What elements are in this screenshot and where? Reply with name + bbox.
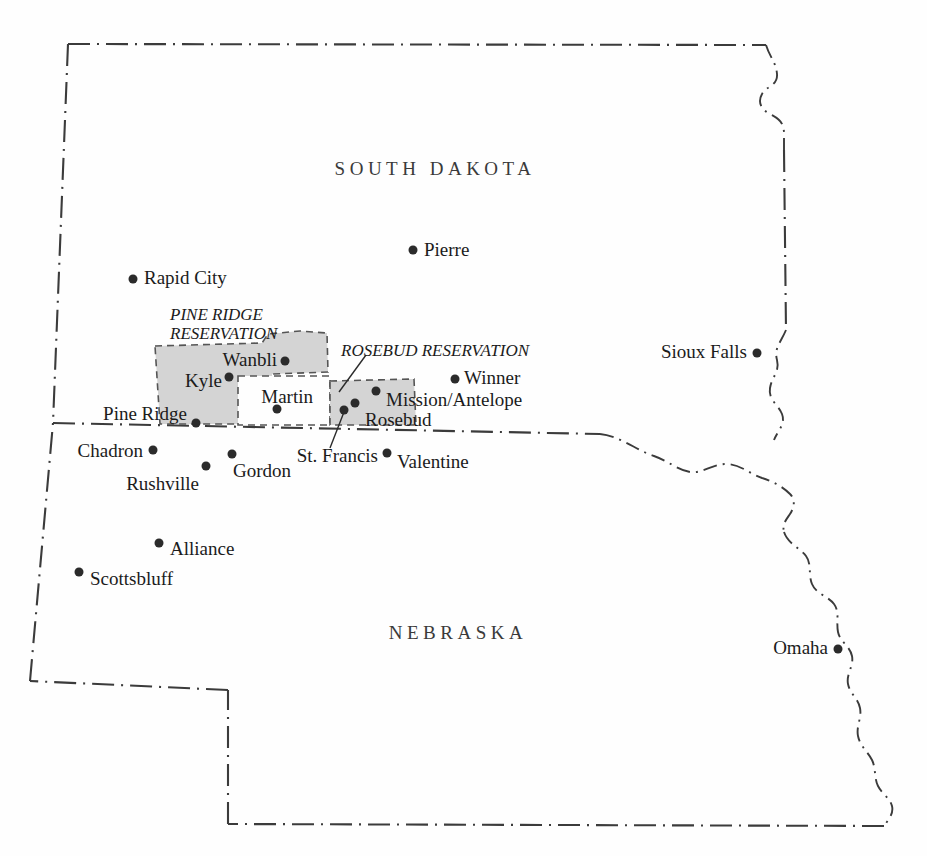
city-dot-gordon[interactable]	[228, 450, 237, 459]
city-dot-pine-ridge[interactable]	[192, 419, 201, 428]
city-label-chadron: Chadron	[78, 441, 143, 460]
city-dot-scottsbluff[interactable]	[75, 568, 84, 577]
city-label-winner: Winner	[464, 368, 520, 387]
city-label-gordon: Gordon	[233, 461, 291, 480]
city-label-rapid-city: Rapid City	[144, 268, 227, 287]
city-dot-chadron[interactable]	[149, 446, 158, 455]
city-dot-wanbli[interactable]	[281, 357, 290, 366]
city-label-st-francis: St. Francis	[297, 446, 378, 465]
nebraska-east-border	[784, 532, 892, 826]
city-label-omaha: Omaha	[773, 638, 828, 657]
map-canvas: .bline { fill: none; stroke: #3b3b3b; st…	[0, 0, 927, 856]
city-dot-kyle[interactable]	[225, 373, 234, 382]
city-dot-mission-antelope[interactable]	[372, 387, 381, 396]
city-label-martin: Martin	[261, 387, 313, 406]
city-label-wanbli: Wanbli	[223, 350, 277, 369]
reservation-label-pine-ridge: PINE RIDGE RESERVATION	[170, 305, 277, 343]
city-dot-omaha[interactable]	[834, 645, 843, 654]
reservation-label-rosebud: ROSEBUD RESERVATION	[341, 341, 529, 360]
city-label-pine-ridge: Pine Ridge	[103, 404, 187, 423]
city-label-mission-antelope: Mission/Antelope	[386, 390, 522, 409]
city-label-pierre: Pierre	[424, 240, 469, 259]
nebraska-south-border	[228, 824, 884, 826]
city-label-rosebud: Rosebud	[365, 410, 432, 429]
city-label-kyle: Kyle	[185, 371, 222, 390]
city-dot-alliance[interactable]	[155, 539, 164, 548]
city-label-rushville: Rushville	[126, 474, 199, 493]
city-dot-rushville[interactable]	[202, 462, 211, 471]
city-label-alliance: Alliance	[170, 539, 234, 558]
map-geometry: .bline { fill: none; stroke: #3b3b3b; st…	[0, 0, 927, 856]
city-label-sioux-falls: Sioux Falls	[661, 342, 747, 361]
state-label-south-dakota: SOUTH DAKOTA	[335, 158, 536, 180]
city-label-valentine: Valentine	[397, 452, 469, 471]
city-label-scottsbluff: Scottsbluff	[90, 569, 173, 588]
city-dot-st-francis[interactable]	[340, 406, 349, 415]
city-dot-valentine[interactable]	[383, 449, 392, 458]
city-dot-winner[interactable]	[451, 375, 460, 384]
state-label-nebraska: NEBRASKA	[389, 622, 527, 644]
city-dot-sioux-falls[interactable]	[753, 349, 762, 358]
city-dot-rapid-city[interactable]	[129, 275, 138, 284]
city-dot-pierre[interactable]	[409, 246, 418, 255]
city-dot-rosebud[interactable]	[351, 399, 360, 408]
